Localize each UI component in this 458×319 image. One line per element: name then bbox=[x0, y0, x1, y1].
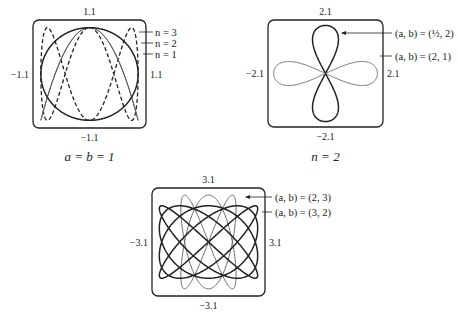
legend-label-half-2: (a, b) = (½, 2) bbox=[395, 28, 454, 40]
tick-bottom: −3.1 bbox=[199, 300, 217, 311]
tick-left: −3.1 bbox=[130, 237, 148, 248]
tick-right: 1.1 bbox=[150, 69, 163, 80]
tick-right: 3.1 bbox=[269, 237, 282, 248]
plot-curves bbox=[159, 195, 257, 289]
arrow-icon bbox=[245, 195, 250, 199]
plot-frame bbox=[33, 20, 146, 128]
legend: n = 3 n = 2 n = 1 bbox=[139, 27, 177, 60]
panel-n-equals-2: 2.1 −2.1 −2.1 2.1 (a, b) = (½, 2) (a, b)… bbox=[246, 6, 454, 164]
caption: a = b = 1 bbox=[64, 149, 114, 164]
curve--a-b-2-1- bbox=[274, 61, 378, 85]
curve--a-b-3-2- bbox=[159, 206, 257, 278]
tick-bottom: −2.1 bbox=[316, 131, 334, 142]
panel-ab-pairs: 3.1 −3.1 −3.1 3.1 (a, b) = (2, 3) (a, b)… bbox=[130, 174, 332, 311]
tick-bottom: −1.1 bbox=[80, 132, 98, 143]
legend: (a, b) = (2, 3) (a, b) = (3, 2) bbox=[245, 192, 332, 219]
arrow-icon bbox=[341, 31, 346, 35]
legend-label-2-3: (a, b) = (2, 3) bbox=[275, 192, 332, 204]
legend-label-3-2: (a, b) = (3, 2) bbox=[275, 207, 332, 219]
tick-right: 2.1 bbox=[387, 68, 400, 79]
tick-top: 3.1 bbox=[202, 174, 215, 185]
tick-top: 1.1 bbox=[83, 6, 96, 17]
caption: n = 2 bbox=[311, 149, 340, 164]
panel-a-equals-b-equals-1: 1.1 −1.1 −1.1 1.1 n = 3 n = 2 n = 1 a = … bbox=[11, 6, 177, 164]
lissajous-figure: 1.1 −1.1 −1.1 1.1 n = 3 n = 2 n = 1 a = … bbox=[0, 0, 458, 319]
tick-left: −2.1 bbox=[246, 68, 264, 79]
tick-left: −1.1 bbox=[11, 69, 29, 80]
legend-label-n3: n = 3 bbox=[155, 27, 177, 38]
legend-label-n2: n = 2 bbox=[155, 38, 177, 49]
legend-label-n1: n = 1 bbox=[155, 49, 177, 60]
plot-curves bbox=[41, 28, 138, 121]
legend-label-2-1: (a, b) = (2, 1) bbox=[395, 51, 452, 63]
legend: (a, b) = (½, 2) (a, b) = (2, 1) bbox=[341, 28, 454, 63]
tick-top: 2.1 bbox=[319, 6, 332, 17]
plot-curves bbox=[274, 25, 378, 121]
